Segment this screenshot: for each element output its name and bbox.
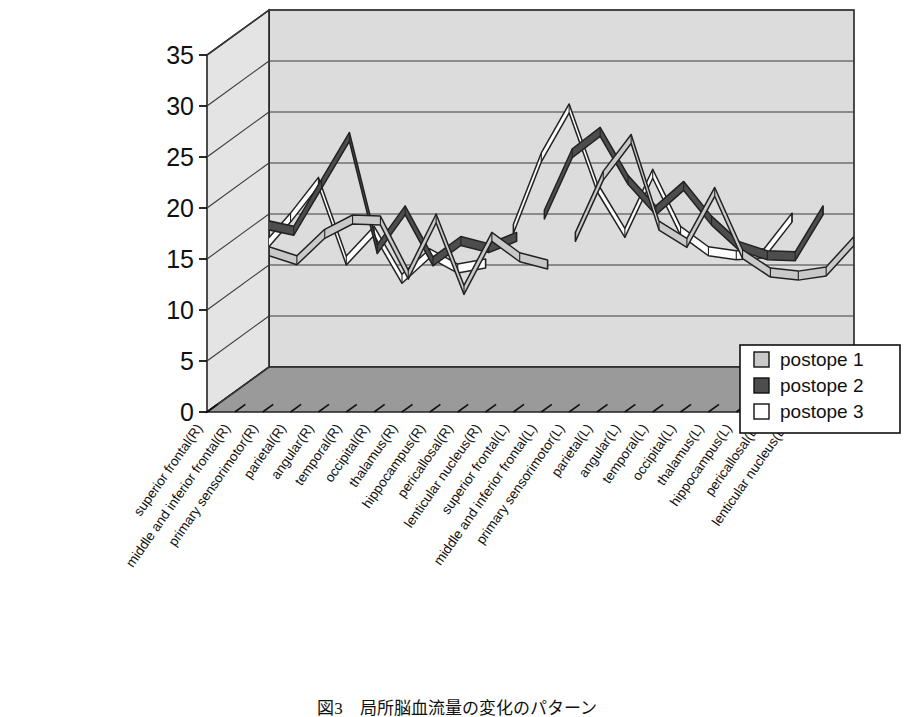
svg-text:35: 35 (166, 41, 194, 69)
svg-text:30: 30 (166, 92, 194, 120)
legend-item-label[interactable]: postope 1 (780, 349, 863, 370)
svg-text:5: 5 (180, 347, 194, 375)
chart-canvas: 05101520253035 superior frontal(R)middle… (0, 0, 914, 717)
legend-item-label[interactable]: postope 3 (780, 401, 863, 422)
svg-text:25: 25 (166, 143, 194, 171)
figure-caption: 図3 局所脳血流量の変化のパターン (0, 694, 914, 717)
chart-figure: H.U.（contusion・ASDH）（5,9→10,17） 05101520… (0, 0, 914, 717)
chart-legend[interactable]: postope 1postope 2postope 3 (740, 345, 900, 433)
legend-item-label[interactable]: postope 2 (780, 375, 863, 396)
x-axis-labels: superior frontal(R)middle and inferior f… (123, 421, 791, 570)
svg-text:15: 15 (166, 245, 194, 273)
svg-text:20: 20 (166, 194, 194, 222)
y-axis-labels: 05101520253035 (166, 41, 194, 426)
svg-text:10: 10 (166, 296, 194, 324)
